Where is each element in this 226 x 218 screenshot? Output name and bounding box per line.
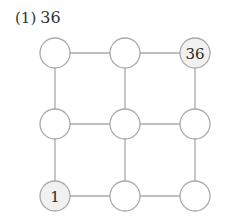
node-r0-c0 (40, 38, 70, 68)
grid-diagram: 36 1 (0, 0, 226, 218)
node-r0-c1 (110, 38, 140, 68)
node-r1-c0 (40, 109, 70, 139)
node-r2-c2 (180, 181, 210, 211)
node-r1-c2 (180, 109, 210, 139)
node-r0-c2-end: 36 (180, 38, 210, 68)
node-r2-c1 (110, 181, 140, 211)
start-node-label: 1 (50, 188, 60, 206)
node-r2-c0-start: 1 (40, 181, 70, 211)
end-node-label: 36 (185, 45, 204, 63)
node-r1-c1 (110, 109, 140, 139)
